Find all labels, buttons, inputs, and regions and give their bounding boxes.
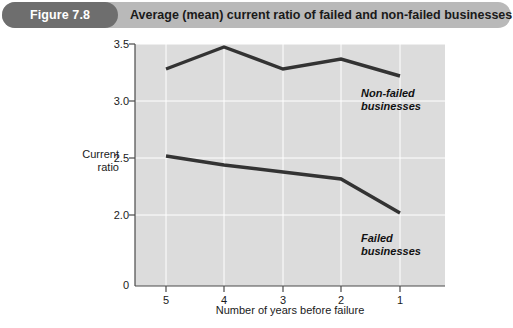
- line-chart-plot: [0, 30, 513, 328]
- y-axis-title: Current ratio: [57, 148, 119, 174]
- y-axis-title-line-2: ratio: [57, 161, 119, 174]
- annotation-non-failed-line-1: Non-failed: [361, 87, 421, 100]
- x-axis-ticks: [166, 286, 400, 292]
- figure-title: Average (mean) current ratio of failed a…: [130, 2, 512, 28]
- x-axis-title: Number of years before failure: [135, 304, 445, 316]
- figure-number-label: Figure 7.8: [2, 2, 118, 28]
- annotation-failed-line-2: businesses: [361, 245, 421, 258]
- ytick-label-3-0: 3.0: [95, 95, 129, 107]
- series-annotation-non-failed-businesses: Non-failed businesses: [361, 87, 421, 113]
- chart-canvas: 3.5 3.0 2.5 2.0 0 Current ratio 5 4 3 2 …: [0, 30, 513, 328]
- figure-number-badge: Figure 7.8: [2, 2, 118, 28]
- y-axis-title-line-1: Current: [57, 148, 119, 161]
- series-annotation-failed-businesses: Failed businesses: [361, 232, 421, 258]
- y-axis-ticks: [129, 44, 135, 215]
- ytick-label-0: 0: [95, 279, 129, 291]
- annotation-failed-line-1: Failed: [361, 232, 421, 245]
- ytick-label-2-0: 2.0: [95, 209, 129, 221]
- figure-container: Figure 7.8 Average (mean) current ratio …: [0, 0, 513, 328]
- ytick-label-3-5: 3.5: [95, 38, 129, 50]
- annotation-non-failed-line-2: businesses: [361, 100, 421, 113]
